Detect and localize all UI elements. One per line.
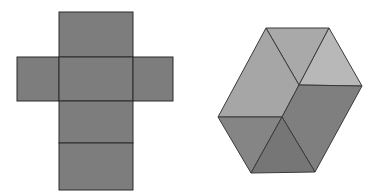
net-face-right bbox=[133, 57, 173, 101]
net-face-left bbox=[17, 57, 59, 101]
diagram-canvas bbox=[0, 0, 378, 196]
hexagonal-solid bbox=[218, 28, 362, 173]
net-face-top bbox=[59, 12, 133, 57]
net-face-center bbox=[59, 57, 133, 101]
cube-net bbox=[17, 12, 173, 190]
net-face-lower bbox=[59, 101, 133, 143]
net-face-bottom bbox=[59, 143, 133, 190]
